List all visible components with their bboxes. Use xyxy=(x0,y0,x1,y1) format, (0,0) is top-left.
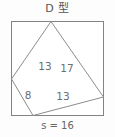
edge-label-upper-right: 17 xyxy=(60,62,73,74)
edge-label-lower-right: 13 xyxy=(56,90,69,102)
geometry-figure: D 型 13 17 8 13 s = 16 xyxy=(0,0,115,137)
edge-label-lower-left: 8 xyxy=(25,89,32,101)
edge-label-upper-left: 13 xyxy=(38,60,51,72)
base-side-caption: s = 16 xyxy=(0,119,115,133)
figure-drawing: 13 17 8 13 xyxy=(0,0,115,137)
